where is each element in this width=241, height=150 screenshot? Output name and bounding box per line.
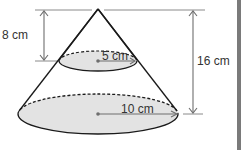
cone-diagram: 8 cm 16 cm 5 cm 10 cm	[0, 0, 241, 150]
total-height-label: 16 cm	[197, 55, 230, 67]
large-radius-label: 10 cm	[121, 103, 154, 115]
top-height-label: 8 cm	[2, 29, 28, 41]
cone-figure	[0, 0, 241, 150]
small-radius-label: 5 cm	[102, 50, 128, 62]
edge-strip	[237, 0, 241, 150]
